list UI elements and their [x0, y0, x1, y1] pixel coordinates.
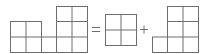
l-shape — [153, 7, 199, 53]
decomposition-diagram — [0, 0, 209, 54]
square-2x2 — [106, 15, 137, 46]
equals-sign — [92, 28, 100, 32]
plus-sign — [140, 26, 148, 34]
composite-shape — [11, 7, 88, 53]
